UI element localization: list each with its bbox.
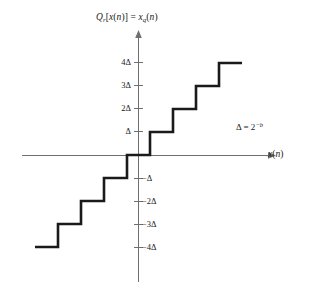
y-axis-arrowhead bbox=[135, 30, 142, 38]
y-tick-label-delta: Δ bbox=[107, 127, 131, 136]
y-tick-label-3delta: 3Δ bbox=[107, 81, 131, 90]
quantizer-transfer-figure: Qr[x(n)] = xq(n) Δ = 2−b x(n) 4Δ 3Δ 2Δ Δ… bbox=[0, 0, 312, 302]
y-tick-label-minus-4delta: −4Δ bbox=[142, 243, 168, 252]
delta-annotation: Δ = 2−b bbox=[236, 122, 263, 132]
plot-title: Qr[x(n)] = xq(n) bbox=[96, 13, 158, 24]
y-tick-label-minus-2delta: −2Δ bbox=[142, 197, 168, 206]
y-tick-label-2delta: 2Δ bbox=[107, 104, 131, 113]
y-tick-label-4delta: 4Δ bbox=[107, 58, 131, 67]
plot-canvas bbox=[0, 0, 312, 302]
y-tick-label-minus-3delta: −3Δ bbox=[142, 220, 168, 229]
x-axis-label: x(n) bbox=[268, 150, 283, 160]
y-tick-label-minus-delta: −Δ bbox=[142, 174, 168, 183]
